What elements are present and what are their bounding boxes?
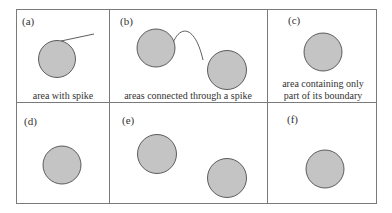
area-circle-right bbox=[208, 51, 247, 90]
panel-c-caption-line2: part of its boundary bbox=[284, 90, 363, 101]
area-circle bbox=[304, 33, 342, 71]
area-circle-right bbox=[208, 159, 247, 198]
panel-f-label: (f) bbox=[287, 113, 298, 126]
area-circle bbox=[306, 150, 344, 188]
panel-a-caption: area with spike bbox=[33, 90, 94, 101]
area-circle-left bbox=[138, 135, 177, 174]
figure-diagram: (a) area with spike (b) areas connected … bbox=[0, 0, 392, 213]
area-circle bbox=[39, 41, 76, 78]
spike-curve bbox=[173, 31, 203, 60]
panel-b-caption: areas connected through a spike bbox=[124, 90, 252, 101]
area-circle bbox=[43, 146, 81, 184]
panel-e: (e) bbox=[122, 114, 247, 198]
panel-c-caption-line1: area containing only bbox=[282, 78, 364, 89]
area-circle-left bbox=[137, 29, 175, 67]
panel-b-label: (b) bbox=[120, 15, 133, 28]
panel-e-label: (e) bbox=[122, 114, 135, 127]
panel-d-label: (d) bbox=[24, 115, 37, 128]
panel-a-label: (a) bbox=[22, 15, 35, 28]
panel-c-label: (c) bbox=[288, 14, 301, 27]
panel-c: (c) area containing only part of its bou… bbox=[282, 14, 364, 101]
panel-a: (a) area with spike bbox=[22, 15, 94, 101]
spike-line bbox=[61, 34, 94, 41]
panel-b: (b) areas connected through a spike bbox=[120, 15, 252, 101]
panel-d: (d) bbox=[24, 115, 81, 184]
panel-f: (f) bbox=[287, 113, 344, 188]
